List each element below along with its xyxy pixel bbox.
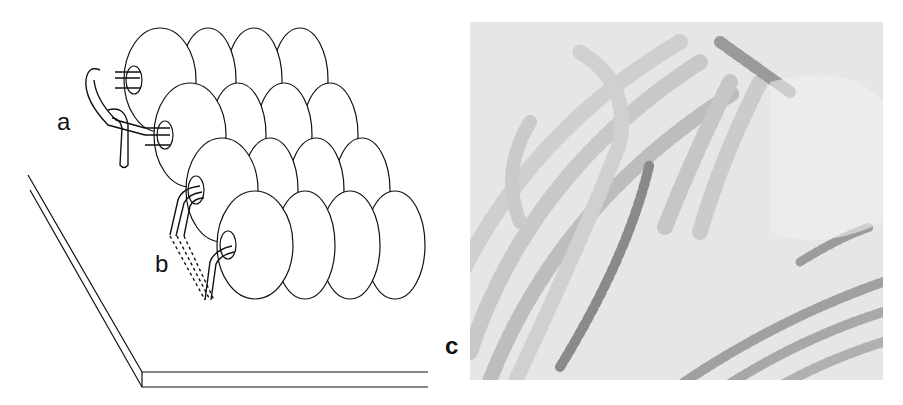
label-b: b bbox=[155, 250, 168, 278]
label-c: c bbox=[445, 332, 458, 360]
bead-stitch-illustration: a b bbox=[0, 0, 450, 405]
label-a: a bbox=[57, 108, 70, 136]
bead-row-4 bbox=[217, 191, 425, 299]
beadwork-photo bbox=[470, 22, 883, 380]
